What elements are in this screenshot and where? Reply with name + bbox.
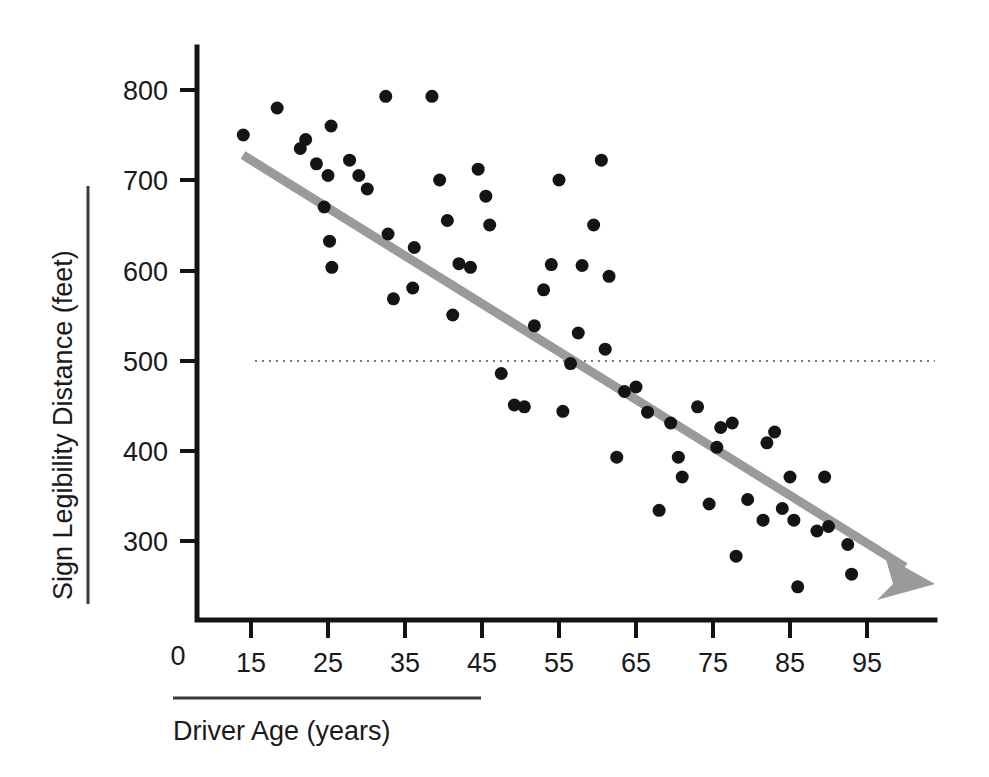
data-point xyxy=(603,270,616,283)
data-point xyxy=(710,441,723,454)
data-point xyxy=(595,154,608,167)
data-point xyxy=(322,169,335,182)
y-tick-label: 700 xyxy=(123,166,168,196)
data-point xyxy=(599,343,612,356)
data-point xyxy=(610,451,623,464)
x-tick-label: 65 xyxy=(621,648,651,678)
data-point xyxy=(446,309,459,322)
y-tick-label: 800 xyxy=(123,76,168,106)
data-point xyxy=(472,163,485,176)
data-point xyxy=(572,327,585,340)
data-point xyxy=(653,504,666,517)
data-point xyxy=(452,257,465,270)
data-point xyxy=(730,550,743,563)
data-point xyxy=(310,157,323,170)
data-point xyxy=(361,183,374,196)
y-tick-labels: 800 700 600 500 400 300 xyxy=(123,76,168,557)
data-point xyxy=(822,520,835,533)
data-point xyxy=(537,283,550,296)
data-point xyxy=(382,228,395,241)
y-tick-label: 300 xyxy=(123,527,168,557)
data-point xyxy=(791,580,804,593)
data-point xyxy=(545,258,558,271)
y-axis-title: Sign Legibility Distance (feet) xyxy=(48,250,78,600)
data-point xyxy=(425,90,438,103)
data-point xyxy=(325,120,338,133)
x-axis-title: Driver Age (years) xyxy=(173,716,391,746)
data-point xyxy=(518,400,531,413)
x-tick-label: 15 xyxy=(236,648,266,678)
x-axis-ticks xyxy=(251,620,867,638)
data-point xyxy=(757,514,770,527)
y-tick-label: 600 xyxy=(123,257,168,287)
data-point xyxy=(672,451,685,464)
data-point xyxy=(664,417,677,430)
plot-canvas: 800 700 600 500 400 300 0 15 25 35 45 55… xyxy=(0,0,989,777)
origin-label: 0 xyxy=(170,641,185,671)
data-point xyxy=(741,493,754,506)
data-point xyxy=(379,90,392,103)
data-point xyxy=(576,259,589,272)
data-point xyxy=(587,219,600,232)
data-point xyxy=(676,471,689,484)
data-point xyxy=(784,471,797,484)
x-tick-labels: 15 25 35 45 55 65 75 85 95 xyxy=(236,648,882,678)
y-axis-ticks xyxy=(180,90,197,541)
data-point xyxy=(318,201,331,214)
data-point xyxy=(483,219,496,232)
data-point xyxy=(343,154,356,167)
data-point xyxy=(237,129,250,142)
data-point xyxy=(691,400,704,413)
data-point xyxy=(387,292,400,305)
data-point xyxy=(299,133,312,146)
x-tick-label: 95 xyxy=(852,648,882,678)
data-point xyxy=(703,498,716,511)
data-point xyxy=(408,241,421,254)
data-point xyxy=(776,502,789,515)
x-tick-label: 35 xyxy=(390,648,420,678)
x-tick-label: 55 xyxy=(544,648,574,678)
y-tick-label: 400 xyxy=(123,437,168,467)
data-point xyxy=(352,169,365,182)
data-point xyxy=(479,190,492,203)
data-point xyxy=(325,261,338,274)
y-tick-label: 500 xyxy=(123,347,168,377)
data-point xyxy=(406,282,419,295)
data-point xyxy=(528,319,541,332)
data-point xyxy=(841,538,854,551)
data-point xyxy=(564,357,577,370)
x-tick-label: 25 xyxy=(313,648,343,678)
data-point xyxy=(787,514,800,527)
data-point xyxy=(433,174,446,187)
data-point xyxy=(441,214,454,227)
plot-axes xyxy=(197,47,935,620)
data-point xyxy=(556,405,569,418)
data-point xyxy=(818,471,831,484)
data-point xyxy=(630,381,643,394)
data-point xyxy=(323,235,336,248)
data-point xyxy=(495,367,508,380)
data-point xyxy=(768,426,781,439)
x-tick-label: 85 xyxy=(775,648,805,678)
data-point xyxy=(726,417,739,430)
data-point xyxy=(641,406,654,419)
data-point xyxy=(271,102,284,115)
scatter-plot-figure: 800 700 600 500 400 300 0 15 25 35 45 55… xyxy=(0,0,989,777)
data-point xyxy=(760,436,773,449)
data-point xyxy=(553,174,566,187)
x-tick-label: 75 xyxy=(698,648,728,678)
data-point xyxy=(714,421,727,434)
data-point xyxy=(810,525,823,538)
data-point xyxy=(464,261,477,274)
data-point xyxy=(618,385,631,398)
data-point xyxy=(845,568,858,581)
x-tick-label: 45 xyxy=(467,648,497,678)
